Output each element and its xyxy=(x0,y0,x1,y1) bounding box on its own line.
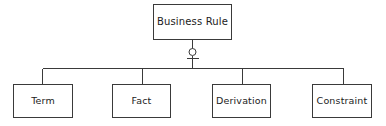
node-derivation-label: Derivation xyxy=(216,96,267,106)
node-constraint-label: Constraint xyxy=(317,96,368,106)
node-fact[interactable]: Fact xyxy=(112,84,171,118)
node-business-rule-label: Business Rule xyxy=(157,17,228,27)
node-derivation[interactable]: Derivation xyxy=(212,84,271,118)
node-term[interactable]: Term xyxy=(13,84,73,118)
node-fact-label: Fact xyxy=(132,96,152,106)
node-term-label: Term xyxy=(31,96,55,106)
node-business-rule[interactable]: Business Rule xyxy=(153,4,232,40)
node-constraint[interactable]: Constraint xyxy=(312,84,372,118)
hollow-circle-marker-icon xyxy=(189,49,196,56)
business-rule-taxonomy-diagram: Business Rule Term Fact Derivation Const… xyxy=(0,0,386,126)
